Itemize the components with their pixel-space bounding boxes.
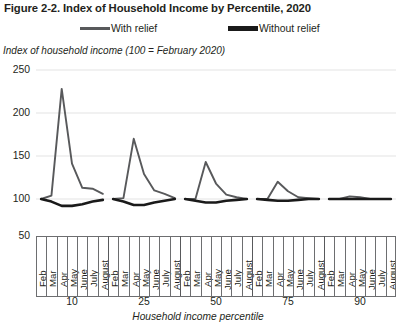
legend-label-with-relief: With relief [111, 23, 157, 34]
x-tick-month: June [293, 236, 303, 296]
x-tick-month: June [149, 236, 159, 296]
x-tick-month: Mar [118, 236, 128, 296]
plot-area [0, 58, 396, 238]
x-tick-month: Feb [324, 236, 334, 296]
series-line-with-relief-p75 [257, 182, 319, 199]
y-tick-label: 200 [0, 107, 30, 118]
series-line-without-relief-p10 [41, 199, 103, 206]
x-axis-group-label: 75 [252, 296, 324, 307]
x-tick-month: July [303, 236, 313, 296]
x-tick-month: July [159, 236, 169, 296]
series-line-with-relief-p10 [41, 89, 103, 199]
x-tick-month: June [77, 236, 87, 296]
y-tick-label: 250 [0, 64, 30, 75]
x-tick-month: Apr [129, 236, 139, 296]
x-tick-month: Feb [252, 236, 262, 296]
x-axis: FebMarAprMayJuneJulyAugust10FebMarAprMay… [36, 236, 396, 296]
figure-container: Figure 2-2. Index of Household Income by… [0, 0, 396, 332]
x-tick-month: May [67, 236, 77, 296]
series-line-without-relief-p25 [113, 199, 175, 205]
x-axis-group-label: 25 [108, 296, 180, 307]
x-axis-group-label: 50 [180, 296, 252, 307]
x-tick-month: July [231, 236, 241, 296]
x-tick-month: May [355, 236, 365, 296]
x-axis-group-separator [252, 236, 253, 296]
series-line-with-relief-p50 [185, 162, 247, 199]
x-tick-month: August [170, 236, 180, 296]
y-tick-label: 150 [0, 150, 30, 161]
x-tick-month: July [375, 236, 385, 296]
chart-legend: With relief Without relief [0, 22, 396, 40]
x-tick-month: Apr [201, 236, 211, 296]
x-tick-month: June [221, 236, 231, 296]
x-tick-month: Mar [334, 236, 344, 296]
x-tick-month: Mar [262, 236, 272, 296]
legend-item-without-relief: Without relief [228, 23, 320, 34]
legend-swatch-with-relief-icon [80, 27, 110, 30]
x-axis-group-label: 90 [324, 296, 396, 307]
y-axis-note: Index of household income (100 = Februar… [3, 45, 225, 56]
series-line-with-relief-p25 [113, 139, 175, 199]
figure-title: Figure 2-2. Index of Household Income by… [4, 2, 392, 14]
x-tick-month: Apr [273, 236, 283, 296]
x-tick-month: Feb [36, 236, 46, 296]
x-tick-month: May [211, 236, 221, 296]
x-tick-month: May [139, 236, 149, 296]
x-tick-month: Mar [46, 236, 56, 296]
legend-item-with-relief: With relief [80, 23, 157, 34]
x-tick-month: Apr [345, 236, 355, 296]
legend-label-without-relief: Without relief [259, 23, 320, 34]
x-axis-group-separator [180, 236, 181, 296]
x-tick-month: Mar [190, 236, 200, 296]
x-tick-month: Feb [180, 236, 190, 296]
x-axis-group-label: 10 [36, 296, 108, 307]
x-tick-month: Feb [108, 236, 118, 296]
y-tick-label: 100 [0, 193, 30, 204]
x-tick-month: July [87, 236, 97, 296]
x-axis-title: Household income percentile [0, 311, 396, 322]
y-tick-label: 50 [0, 230, 30, 241]
x-axis-group-separator [108, 236, 109, 296]
x-tick-month: Apr [57, 236, 67, 296]
x-tick-month: June [365, 236, 375, 296]
x-tick-month: August [98, 236, 108, 296]
x-tick-month: May [283, 236, 293, 296]
series-line-without-relief-p50 [185, 199, 247, 202]
x-tick-month: August [314, 236, 324, 296]
x-axis-group-separator [324, 236, 325, 296]
legend-swatch-without-relief-icon [228, 26, 258, 31]
x-tick-month: August [242, 236, 252, 296]
